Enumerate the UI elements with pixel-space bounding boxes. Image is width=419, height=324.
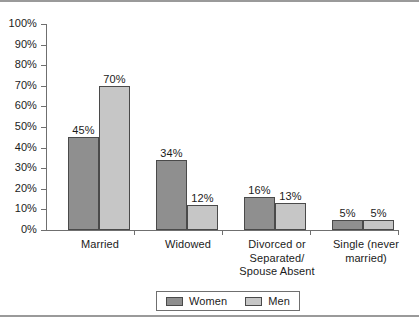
y-tick-label-20: 20% [15, 182, 37, 194]
x-tick-4 [398, 230, 399, 235]
y-tick-label-40: 40% [15, 141, 37, 153]
x-tick-3 [310, 230, 311, 235]
x-category-label-married: Married [58, 238, 142, 252]
bar-women-divorced[interactable]: 16% [244, 197, 275, 230]
legend-label-women: Women [189, 295, 227, 307]
bar-value-men-widowed: 12% [191, 192, 213, 204]
bar-value-men-divorced: 13% [279, 190, 301, 202]
x-category-label-divorced-line-1: Divorced or [232, 238, 322, 252]
page-rule-top [0, 0, 419, 2]
bar-women-widowed[interactable]: 34% [156, 160, 187, 230]
page-rule-bottom [0, 315, 419, 317]
x-category-label-widowed-line-1: Widowed [146, 238, 230, 252]
y-tick-label-30: 30% [15, 161, 37, 173]
y-tick-label-0: 0% [21, 223, 37, 235]
legend-swatch-women-icon [166, 297, 183, 306]
x-category-label-widowed: Widowed [146, 238, 230, 252]
bar-value-women-single: 5% [339, 207, 355, 219]
x-category-label-single-line-2: married) [320, 252, 412, 266]
bar-men-widowed[interactable]: 12% [187, 205, 218, 230]
bar-chart: 100% 90% 80% 70% 60% 50% 40% 30% 20% 10% [0, 6, 419, 311]
x-category-label-divorced: Divorced or Separated/ Spouse Absent [232, 238, 322, 279]
y-tick-label-50: 50% [15, 120, 37, 132]
x-tick-1 [134, 230, 135, 235]
x-category-label-married-line-1: Married [58, 238, 142, 252]
x-category-label-single: Single (never married) [320, 238, 412, 265]
bar-value-women-married: 45% [72, 124, 94, 136]
y-tick-label-60: 60% [15, 99, 37, 111]
bar-women-married[interactable]: 45% [68, 137, 99, 230]
y-tick-label-80: 80% [15, 58, 37, 70]
y-tick-label-10: 10% [15, 202, 37, 214]
x-category-label-single-line-1: Single (never [320, 238, 412, 252]
chart-legend: Women Men [156, 291, 300, 311]
legend-swatch-men-icon [245, 297, 262, 306]
bar-value-women-divorced: 16% [248, 184, 270, 196]
legend-label-men: Men [268, 295, 290, 307]
bar-value-men-single: 5% [370, 207, 386, 219]
plot-area: 45% 70% 34% 12% 16% 13% 5% [46, 24, 398, 230]
legend-item-women[interactable]: Women [166, 295, 227, 307]
bar-men-single[interactable]: 5% [363, 220, 394, 230]
legend-item-men[interactable]: Men [245, 295, 290, 307]
chart-figure: 100% 90% 80% 70% 60% 50% 40% 30% 20% 10% [0, 0, 419, 324]
bar-value-women-widowed: 34% [160, 147, 182, 159]
bar-men-married[interactable]: 70% [99, 86, 130, 230]
x-category-label-divorced-line-2: Separated/ [232, 252, 322, 266]
bar-men-divorced[interactable]: 13% [275, 203, 306, 230]
x-tick-2 [222, 230, 223, 235]
y-tick-label-70: 70% [15, 79, 37, 91]
y-tick-label-90: 90% [15, 38, 37, 50]
bar-women-single[interactable]: 5% [332, 220, 363, 230]
x-category-label-divorced-line-3: Spouse Absent [232, 265, 322, 279]
bar-value-men-married: 70% [103, 73, 125, 85]
y-tick-label-100: 100% [8, 17, 37, 29]
